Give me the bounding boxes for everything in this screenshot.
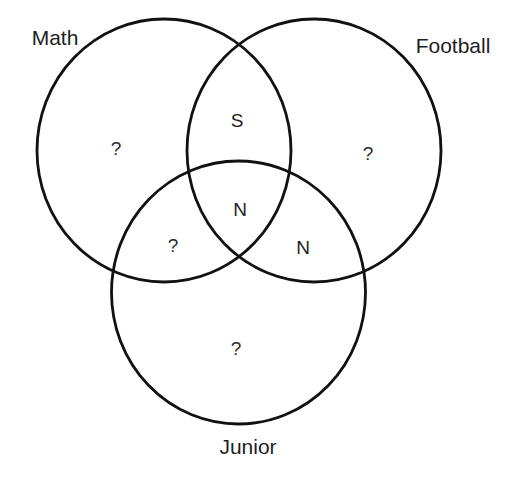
set-label-math: Math <box>32 26 79 49</box>
region-label-math-junior: ? <box>168 235 179 256</box>
set-label-junior: Junior <box>219 435 276 458</box>
set-label-football: Football <box>416 34 491 57</box>
region-labels: ??SN?N? <box>111 110 374 359</box>
region-label-junior-only: ? <box>231 338 242 359</box>
set-circle-football <box>187 19 441 282</box>
set-circle-math <box>37 19 291 282</box>
set-labels: MathFootballJunior <box>32 26 491 458</box>
region-label-football-only: ? <box>363 143 374 164</box>
region-label-math-football: S <box>231 110 244 131</box>
region-label-football-junior: N <box>296 237 310 258</box>
region-label-math-football-junior: N <box>233 199 247 220</box>
set-outlines <box>37 19 441 424</box>
region-label-math-only: ? <box>111 138 122 159</box>
venn-diagram: MathFootballJunior ??SN?N? <box>0 0 514 487</box>
